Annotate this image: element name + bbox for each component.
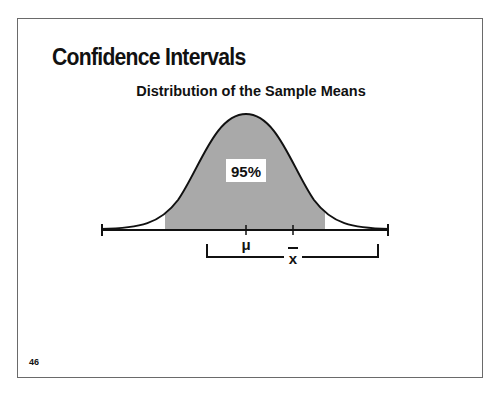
area-label: 95%	[231, 163, 261, 180]
normal-distribution-diagram: 95% μ x	[0, 0, 502, 396]
xbar-label: x	[289, 250, 298, 267]
interval-bracket-right	[302, 244, 378, 257]
page-number: 46	[29, 357, 39, 367]
mu-label: μ	[241, 236, 250, 253]
